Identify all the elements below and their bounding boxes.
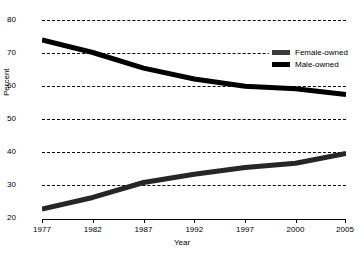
x-tick-2005 xyxy=(345,219,346,223)
x-axis-title: Year xyxy=(0,238,364,247)
x-tick-2000 xyxy=(296,219,297,223)
x-tick-label-1982: 1982 xyxy=(73,225,113,234)
x-tick-label-1992: 1992 xyxy=(174,225,214,234)
y-tick-label-70: 70 xyxy=(0,49,16,57)
x-tick-label-1987: 1987 xyxy=(124,225,164,234)
x-tick-1977 xyxy=(42,219,43,223)
legend: Female-owned Male-owned xyxy=(269,44,351,72)
x-tick-1992 xyxy=(194,219,195,223)
x-tick-label-1997: 1997 xyxy=(225,225,265,234)
y-tick-label-20: 20 xyxy=(0,214,16,222)
y-tick-label-80: 80 xyxy=(0,16,16,24)
y-tick-label-40: 40 xyxy=(0,148,16,156)
y-tick-label-60: 60 xyxy=(0,82,16,90)
x-tick-label-2000: 2000 xyxy=(276,225,316,234)
chart-figure: Percent 80 70 60 50 40 30 20 1977 1982 1… xyxy=(0,0,364,258)
y-tick-label-50: 50 xyxy=(0,115,16,123)
legend-swatch-male-owned xyxy=(272,62,290,67)
legend-item-male-owned: Male-owned xyxy=(272,58,348,70)
legend-item-female-owned: Female-owned xyxy=(272,46,348,58)
plot-area: Female-owned Male-owned xyxy=(42,20,346,219)
x-tick-label-1977: 1977 xyxy=(22,225,62,234)
x-tick-1982 xyxy=(93,219,94,223)
y-tick-label-30: 30 xyxy=(0,181,16,189)
x-tick-label-2005: 2005 xyxy=(325,225,364,234)
line-female-owned xyxy=(42,153,346,209)
legend-label-female-owned: Female-owned xyxy=(295,48,348,57)
legend-swatch-female-owned xyxy=(272,50,290,55)
x-tick-1987 xyxy=(144,219,145,223)
legend-label-male-owned: Male-owned xyxy=(295,60,339,69)
x-tick-1997 xyxy=(245,219,246,223)
